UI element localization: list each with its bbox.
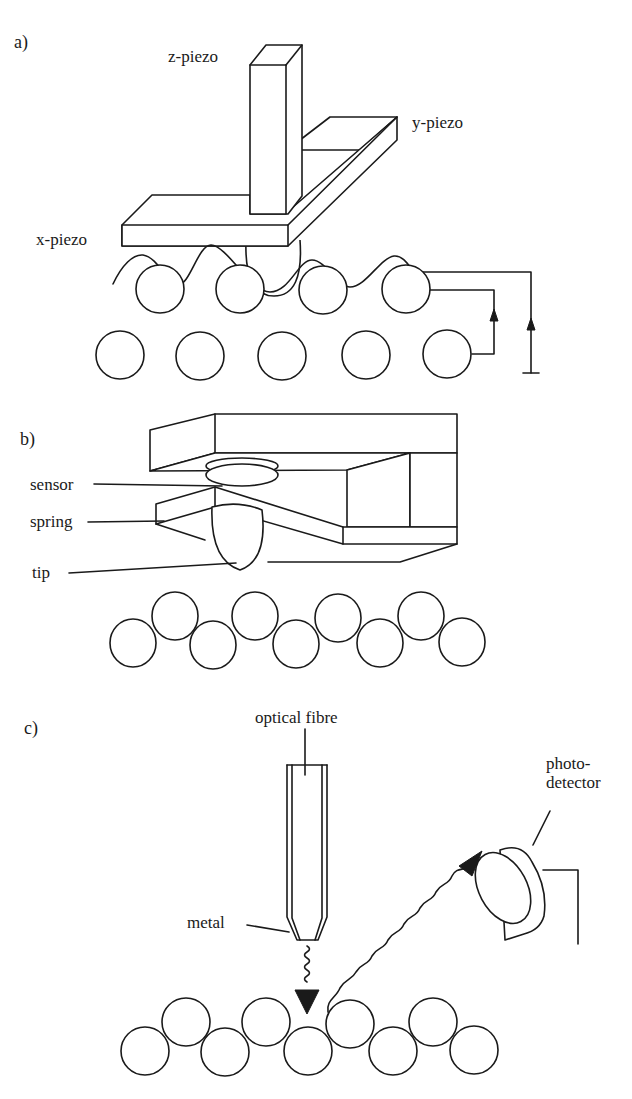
panel-a: a) z-piezo y-piezo x-piezo xyxy=(14,32,539,380)
metal-leader xyxy=(247,925,289,932)
panel-a-label: a) xyxy=(14,32,28,53)
tip-leader xyxy=(69,563,236,573)
photodetector-label-line1: photo- xyxy=(546,754,591,773)
metal-label: metal xyxy=(187,913,225,932)
sensor-leader xyxy=(94,484,222,486)
z-piezo-bar xyxy=(250,45,302,214)
incident-light-wave xyxy=(295,946,319,1014)
surface-atoms-b xyxy=(110,592,485,669)
panel-c: c) optical fibre metal phot xyxy=(24,708,601,1076)
scanning-probe-figure: a) z-piezo y-piezo x-piezo xyxy=(0,0,632,1099)
panel-b: b) sensor spring tip xyxy=(20,414,485,669)
sensor-label: sensor xyxy=(30,475,74,494)
x-piezo-label: x-piezo xyxy=(36,230,87,249)
detector-leader xyxy=(533,811,550,845)
probe-tip-b xyxy=(212,504,263,570)
scattered-light-wave xyxy=(328,851,482,1012)
spring-leader xyxy=(88,521,164,522)
tip-label: tip xyxy=(32,563,50,582)
optical-fibre-probe xyxy=(287,765,327,940)
photodetector-label-line2: detector xyxy=(546,773,601,792)
panel-b-label: b) xyxy=(20,429,35,450)
photodetector xyxy=(464,811,578,944)
y-piezo-label: y-piezo xyxy=(412,113,463,132)
z-piezo-label: z-piezo xyxy=(168,47,218,66)
panel-c-label: c) xyxy=(24,718,38,739)
spring-label: spring xyxy=(30,512,73,531)
sensor xyxy=(206,458,278,486)
optical-fibre-label: optical fibre xyxy=(255,708,338,727)
